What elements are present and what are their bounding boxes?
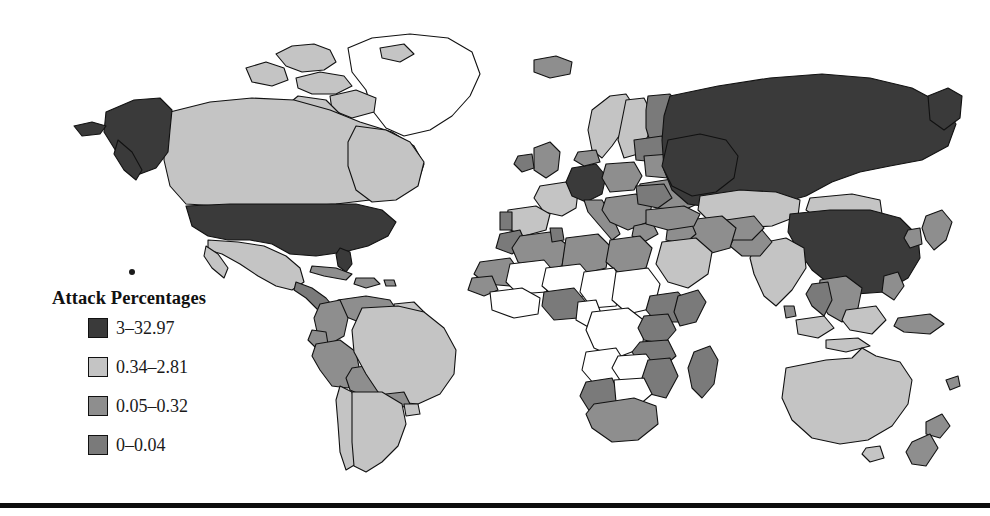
region-aleutians xyxy=(74,122,106,136)
legend-label-2: 0.05–0.32 xyxy=(116,397,188,415)
legend-item-0: 3–32.97 xyxy=(52,317,262,339)
region-tasmania xyxy=(862,446,884,462)
legend-label-1: 0.34–2.81 xyxy=(116,358,188,376)
region-australia xyxy=(782,348,912,444)
region-indonesia-sumatra xyxy=(796,316,834,338)
region-turkey xyxy=(646,206,700,230)
region-argentina xyxy=(352,392,406,472)
region-arctic-islands xyxy=(276,44,336,72)
legend-label-3: 0–0.04 xyxy=(116,436,166,454)
legend-swatch-0 xyxy=(88,318,108,338)
region-kenya xyxy=(638,314,676,344)
region-arctic-island-3 xyxy=(246,62,288,86)
legend-label-0: 3–32.97 xyxy=(116,319,175,337)
region-arctic-island-2 xyxy=(296,72,352,94)
legend-swatch-3 xyxy=(88,435,108,455)
hawaii-marker-dot xyxy=(129,269,135,275)
legend-swatch-2 xyxy=(88,396,108,416)
region-portugal xyxy=(500,212,512,230)
region-tunisia xyxy=(550,228,564,242)
region-iceland xyxy=(534,56,572,78)
region-papua-new-guinea xyxy=(894,314,944,334)
region-sri-lanka xyxy=(784,306,796,318)
region-saudi-arabia xyxy=(656,238,712,288)
region-new-caledonia xyxy=(946,376,960,390)
region-madagascar xyxy=(688,346,718,398)
region-hispaniola xyxy=(354,278,380,288)
region-puerto-rico xyxy=(384,280,396,286)
region-uruguay xyxy=(404,404,420,416)
region-somalia xyxy=(674,290,706,326)
region-new-zealand-south xyxy=(906,434,938,466)
legend-title: Attack Percentages xyxy=(52,288,262,308)
region-japan xyxy=(922,210,952,250)
region-greenland xyxy=(348,34,480,136)
region-ireland xyxy=(514,154,534,172)
legend-item-3: 0–0.04 xyxy=(52,434,262,456)
region-uk xyxy=(534,142,560,178)
legend-swatch-1 xyxy=(88,357,108,377)
map-legend: Attack Percentages 3–32.97 0.34–2.81 0.0… xyxy=(52,288,262,456)
region-borneo xyxy=(842,306,886,334)
region-germany xyxy=(566,164,606,202)
figure-world-map-attack-percentages: Attack Percentages 3–32.97 0.34–2.81 0.0… xyxy=(0,0,990,516)
region-south-africa xyxy=(586,398,658,442)
legend-item-2: 0.05–0.32 xyxy=(52,395,262,417)
legend-item-1: 0.34–2.81 xyxy=(52,356,262,378)
region-canada-east xyxy=(348,126,424,202)
figure-bottom-rule xyxy=(0,503,990,508)
